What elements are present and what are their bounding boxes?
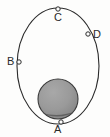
orbit-point-marker-b [17,60,21,64]
orbit-point-marker-d [86,32,90,36]
orbit-point-label-b: B [7,56,14,67]
orbit-diagram-canvas: A B C D [0,0,110,137]
shaded-sphere [38,79,84,120]
orbit-point-label-a: A [54,124,61,135]
orbit-point-label-c: C [54,12,62,23]
orbit-point-label-d: D [93,29,101,40]
